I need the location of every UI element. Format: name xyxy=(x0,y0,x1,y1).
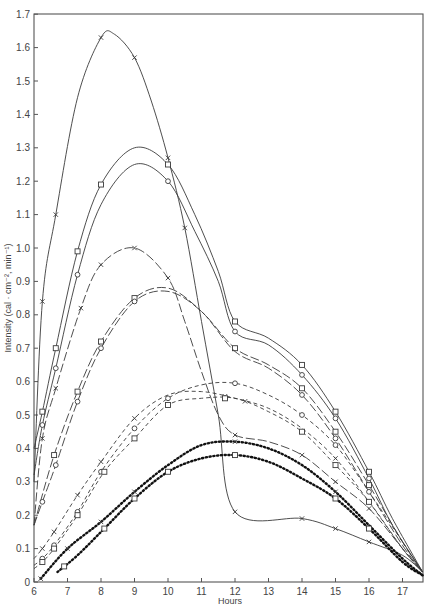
marker-x-icon xyxy=(367,506,371,510)
y-tick-label: 0.6 xyxy=(16,376,30,387)
marker-square-icon xyxy=(367,469,372,474)
plot-frame xyxy=(34,14,423,582)
series-solid-circle xyxy=(34,164,423,572)
x-tick-label: 9 xyxy=(132,586,138,597)
marker-x-icon xyxy=(333,480,337,484)
y-tick-label: 1.5 xyxy=(16,76,30,87)
series-short-dash-x xyxy=(34,391,423,572)
marker-square-icon xyxy=(102,469,107,474)
y-tick-label: 0.7 xyxy=(16,343,30,354)
marker-circle-icon xyxy=(166,179,171,184)
y-tick-label: 1.7 xyxy=(16,9,30,20)
marker-square-icon xyxy=(333,496,338,501)
marker-circle-icon xyxy=(75,272,80,277)
marker-square-icon xyxy=(132,436,137,441)
marker-square-icon xyxy=(233,453,238,458)
marker-circle-icon xyxy=(132,299,137,304)
marker-square-icon xyxy=(333,463,338,468)
marker-x-icon xyxy=(132,416,136,420)
marker-square-icon xyxy=(367,483,372,488)
marker-x-icon xyxy=(367,540,371,544)
marker-x-icon xyxy=(79,306,83,310)
marker-square-icon xyxy=(99,182,104,187)
marker-circle-icon xyxy=(367,489,372,494)
marker-x-icon xyxy=(243,399,247,403)
marker-circle-icon xyxy=(300,373,305,378)
marker-x-icon xyxy=(99,35,103,39)
marker-square-icon xyxy=(102,526,107,531)
y-tick-label: 0.4 xyxy=(16,443,30,454)
marker-circle-icon xyxy=(333,443,338,448)
marker-square-icon xyxy=(222,396,227,401)
marker-circle-icon xyxy=(132,426,137,431)
marker-circle-icon xyxy=(333,436,338,441)
marker-x-icon xyxy=(52,530,56,534)
marker-square-icon xyxy=(367,499,372,504)
y-axis-title: Intensity (cal · cm⁻², min⁻¹) xyxy=(3,243,13,352)
marker-square-icon xyxy=(333,429,338,434)
marker-square-icon xyxy=(75,513,80,518)
marker-square-icon xyxy=(53,346,58,351)
y-tick-label: 0.2 xyxy=(16,510,30,521)
x-tick-label: 10 xyxy=(162,586,174,597)
y-tick-label: 0 xyxy=(24,577,30,588)
x-tick-label: 8 xyxy=(98,586,104,597)
marker-square-icon xyxy=(233,319,238,324)
series-solid-square-upper xyxy=(34,147,423,572)
x-tick-label: 11 xyxy=(196,586,207,597)
marker-circle-icon xyxy=(40,499,45,504)
marker-circle-icon xyxy=(166,396,171,401)
series-dotted-x xyxy=(39,440,423,581)
marker-square-icon xyxy=(300,386,305,391)
series-short-dash-circle xyxy=(34,381,423,572)
marker-square-icon xyxy=(62,564,67,569)
x-axis: 67891011121314151617 xyxy=(31,578,408,597)
y-tick-label: 1.2 xyxy=(16,176,30,187)
marker-x-icon xyxy=(99,263,103,267)
marker-circle-icon xyxy=(333,416,338,421)
marker-square-icon xyxy=(300,362,305,367)
y-tick-label: 0.5 xyxy=(16,410,30,421)
marker-circle-icon xyxy=(53,366,58,371)
marker-square-icon xyxy=(52,453,57,458)
marker-circle-icon xyxy=(233,381,238,386)
y-tick-label: 0.1 xyxy=(16,543,30,554)
marker-circle-icon xyxy=(300,413,305,418)
marker-x-icon xyxy=(333,526,337,530)
marker-x-icon xyxy=(166,276,170,280)
y-tick-label: 1.4 xyxy=(16,109,30,120)
marker-square-icon xyxy=(75,389,80,394)
series-solid-x-peak xyxy=(34,31,423,572)
marker-x-icon xyxy=(132,55,136,59)
y-tick-label: 0.3 xyxy=(16,476,30,487)
marker-x-icon xyxy=(40,546,44,550)
marker-square-icon xyxy=(99,339,104,344)
y-tick-label: 1.0 xyxy=(16,243,30,254)
y-tick-label: 1.6 xyxy=(16,42,30,53)
x-tick-label: 15 xyxy=(330,586,342,597)
x-tick-label: 13 xyxy=(263,586,275,597)
marker-circle-icon xyxy=(75,399,80,404)
x-tick-label: 17 xyxy=(397,586,409,597)
marker-square-icon xyxy=(300,429,305,434)
marker-square-icon xyxy=(333,409,338,414)
x-tick-label: 16 xyxy=(363,586,375,597)
x-tick-label: 7 xyxy=(65,586,71,597)
marker-circle-icon xyxy=(99,346,104,351)
marker-square-icon xyxy=(166,469,171,474)
marker-square-icon xyxy=(40,409,45,414)
marker-circle-icon xyxy=(233,329,238,334)
marker-x-icon xyxy=(333,456,337,460)
marker-square-icon xyxy=(367,526,372,531)
y-tick-label: 1.3 xyxy=(16,142,30,153)
marker-square-icon xyxy=(75,249,80,254)
marker-x-icon xyxy=(300,453,304,457)
x-axis-title: Hours xyxy=(218,596,243,606)
marker-square-icon xyxy=(166,162,171,167)
y-tick-label: 0.8 xyxy=(16,309,30,320)
marker-circle-icon xyxy=(53,463,58,468)
marker-x-icon xyxy=(233,433,237,437)
marker-square-icon xyxy=(166,402,171,407)
y-tick-label: 1.1 xyxy=(16,209,30,220)
x-tick-label: 14 xyxy=(296,586,308,597)
